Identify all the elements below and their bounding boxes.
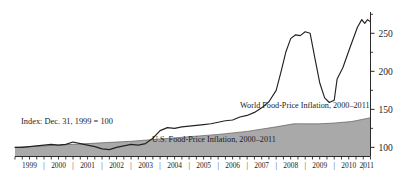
x-tick-label: 2007 <box>254 161 269 170</box>
y-tick-label: 250 <box>379 29 394 39</box>
y-axis-ticks <box>371 14 375 147</box>
x-axis: 1999|2000|2001|2002|2003|2004|2005|2006|… <box>15 157 374 170</box>
x-tick-label: 2010 <box>341 161 356 170</box>
y-tick-label: 200 <box>379 67 394 77</box>
x-tick-label: 2001 <box>80 161 95 170</box>
x-tick-separator: | <box>159 161 160 170</box>
x-tick-separator: | <box>217 161 218 170</box>
source-note <box>2 171 242 183</box>
x-tick-label: 2004 <box>167 161 182 170</box>
chart-container: 100150200250 1999|2000|2001|2002|2003|20… <box>0 0 413 185</box>
y-tick-label: 150 <box>379 105 394 115</box>
x-tick-separator: | <box>130 161 131 170</box>
x-tick-separator: | <box>72 161 73 170</box>
y-axis: 100150200250 <box>371 12 394 156</box>
x-tick-separator: | <box>188 161 189 170</box>
x-tick-label: 2009 <box>312 161 327 170</box>
x-tick-separator: | <box>246 161 247 170</box>
x-tick-label: 2003 <box>138 161 153 170</box>
y-axis-tick-labels: 100150200250 <box>379 29 394 153</box>
y-tick-label: 100 <box>379 143 394 153</box>
x-axis-tick-labels: 1999|2000|2001|2002|2003|2004|2005|2006|… <box>22 161 374 170</box>
x-tick-separator: | <box>101 161 102 170</box>
x-tick-label: 2000 <box>51 161 66 170</box>
x-tick-label: 2008 <box>283 161 298 170</box>
x-tick-label: 2002 <box>109 161 124 170</box>
x-tick-separator: | <box>333 161 334 170</box>
x-tick-label: 2005 <box>196 161 211 170</box>
x-tick-separator: | <box>304 161 305 170</box>
index-note-label: Index: Dec. 31, 1999 = 100 <box>21 117 113 126</box>
x-tick-separator: | <box>43 161 44 170</box>
world-series-label: World Food-Price Inflation, 2000–2011 <box>240 101 370 110</box>
x-tick-label: 2006 <box>225 161 240 170</box>
x-tick-label: 2011 <box>359 161 374 170</box>
x-tick-label: 1999 <box>22 161 37 170</box>
us-series-label: U.S. Food-Price Inflation, 2000–2011 <box>152 135 276 144</box>
x-tick-separator: | <box>275 161 276 170</box>
food-price-inflation-chart: 100150200250 1999|2000|2001|2002|2003|20… <box>0 0 413 185</box>
